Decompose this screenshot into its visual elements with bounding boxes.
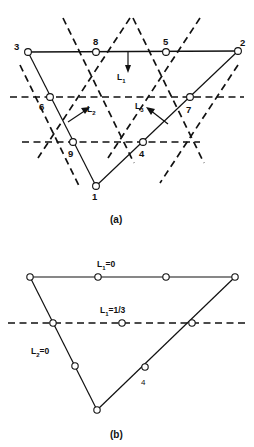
- dashed-line-l3-c: [160, 65, 238, 183]
- node-b-lower-right[interactable]: [142, 364, 148, 370]
- node-label-1: 1: [92, 191, 98, 202]
- label-l1-equals-third: L1=1/3: [100, 305, 126, 317]
- node-8[interactable]: [93, 49, 100, 56]
- edge-3-1: [28, 52, 96, 186]
- node-b-mid-center[interactable]: [119, 320, 125, 326]
- node-label-2: 2: [240, 37, 245, 48]
- node-b-top-left[interactable]: [27, 274, 33, 280]
- label-L3-sub: 3: [140, 107, 144, 113]
- nodes-b: [27, 274, 238, 413]
- node-label-4: 4: [139, 148, 145, 159]
- label-l1-equals-zero: L1=0: [97, 259, 116, 271]
- node-2[interactable]: [235, 48, 242, 55]
- label-L1: L1: [117, 72, 126, 84]
- node-labels-a: 3 8 5 2 6 7 9 4 1: [14, 36, 245, 202]
- node-label-6: 6: [39, 101, 44, 112]
- node-b-bottom[interactable]: [94, 407, 100, 413]
- node-b-top-right[interactable]: [232, 274, 238, 280]
- edge-3-2: [28, 51, 238, 52]
- caption-panel-b: (b): [110, 429, 123, 440]
- node-9[interactable]: [70, 139, 77, 146]
- dashed-line-l3-a: [38, 18, 130, 158]
- label-L3: L3: [135, 101, 144, 113]
- node-b-top-mid-left[interactable]: [95, 274, 101, 280]
- triangle-outline-b: [30, 277, 235, 410]
- dashed-line-l3-b: [108, 18, 200, 158]
- node-b-top-mid-right[interactable]: [163, 274, 169, 280]
- figure-container: 3 8 5 2 6 7 9 4 1 L1 L2 L3 (a): [0, 0, 254, 447]
- node-label-9: 9: [68, 148, 73, 159]
- l1-family-dashed-lines: [10, 97, 244, 142]
- label-l1-third-rest: =1/3: [109, 305, 126, 315]
- label-L2: L2: [87, 104, 96, 116]
- node-1[interactable]: [93, 183, 100, 190]
- panel-b: L1=0 L1=1/3 L2=0 4 (b): [8, 259, 246, 440]
- node-b-mid-left[interactable]: [50, 320, 56, 326]
- edge-right-b: [97, 277, 235, 410]
- panel-a: 3 8 5 2 6 7 9 4 1 L1 L2 L3 (a): [10, 18, 245, 225]
- l2-family-dashed-lines: [20, 18, 204, 188]
- node-4[interactable]: [140, 139, 147, 146]
- arrow-l3-head: [146, 107, 155, 115]
- node-6[interactable]: [47, 94, 54, 101]
- label-L2-sub: 2: [92, 110, 96, 116]
- line-family-labels-a: L1 L2 L3: [87, 72, 144, 116]
- label-L1-sub: 1: [122, 78, 126, 84]
- dashed-line-l2-c: [20, 65, 80, 188]
- arrow-l1-head: [125, 65, 131, 73]
- node-b-lower-left[interactable]: [72, 363, 78, 369]
- node-5[interactable]: [163, 49, 170, 56]
- node-label-5: 5: [163, 36, 169, 47]
- node-label-b-4: 4: [141, 378, 146, 387]
- arrow-l2-shaft: [68, 110, 86, 122]
- label-l1-zero-rest: =0: [106, 259, 116, 269]
- label-l2-equals-zero: L2=0: [31, 346, 50, 358]
- node-7[interactable]: [187, 94, 194, 101]
- node-b-mid-right[interactable]: [189, 320, 195, 326]
- label-l2-zero-rest: =0: [40, 346, 50, 356]
- node-label-7: 7: [186, 104, 191, 115]
- triangular-element-figure: 3 8 5 2 6 7 9 4 1 L1 L2 L3 (a): [0, 0, 254, 447]
- node-label-3: 3: [14, 41, 19, 52]
- caption-panel-a: (a): [110, 214, 122, 225]
- node-3[interactable]: [25, 49, 32, 56]
- node-label-8: 8: [93, 36, 98, 47]
- edge-left-b: [30, 277, 97, 410]
